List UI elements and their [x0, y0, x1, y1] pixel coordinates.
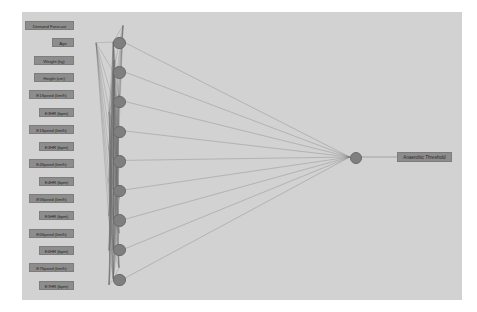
hidden-node-5 [113, 155, 125, 167]
input-node-4: Height (cm) [34, 73, 74, 82]
input-node-14: E6HR (bpm) [39, 246, 74, 255]
input-node-6: E3HR (bpm) [39, 108, 74, 117]
hidden-node-9 [113, 274, 125, 286]
hidden-node-8 [113, 244, 125, 256]
input-node-15: E7Speed (km/h) [29, 263, 74, 272]
hidden-node-1 [113, 37, 125, 49]
input-node-10: E4HR (bpm) [39, 177, 74, 186]
input-node-1: Demand Forecast [25, 21, 74, 30]
hidden-node-6 [113, 185, 125, 197]
input-node-7: E1Speed (km/h) [29, 125, 74, 134]
input-node-5: E1Speed (km/h) [29, 90, 74, 99]
input-node-9: E4Speed (km/h) [29, 159, 74, 168]
neural-network-diagram: Demand ForecastAgeWeight (kg)Height (cm)… [0, 0, 477, 312]
input-node-8: E3HR (bpm) [39, 142, 74, 151]
input-node-16: E7HR (bpm) [39, 281, 74, 290]
input-node-2: Age [52, 38, 74, 47]
input-node-12: E5HR (bpm) [39, 211, 74, 220]
hidden-node-4 [113, 126, 125, 138]
input-node-11: E5Speed (km/h) [29, 194, 74, 203]
output-label-anaerobic-threshold: Anaerobic Threshold [397, 152, 452, 162]
hidden-node-3 [113, 96, 125, 108]
hidden-node-2 [113, 66, 125, 78]
hidden-node-7 [113, 214, 125, 226]
diagram-panel [22, 12, 462, 300]
input-node-3: Weight (kg) [34, 56, 74, 65]
input-node-13: E6Speed (km/h) [29, 229, 74, 238]
